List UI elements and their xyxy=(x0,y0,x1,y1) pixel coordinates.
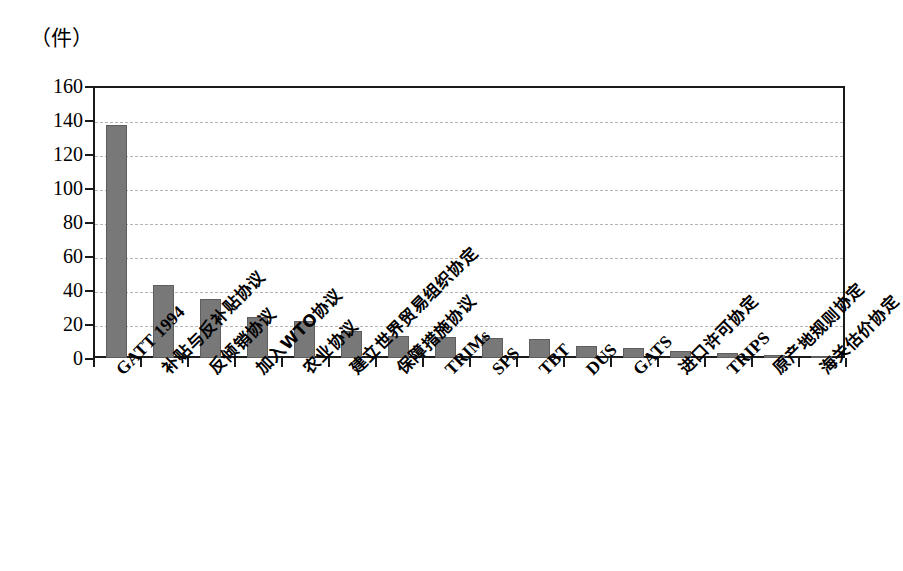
y-tick-mark xyxy=(85,188,93,190)
y-tick-label: 120 xyxy=(53,144,83,164)
y-axis-tick-labels: 160140120100806040200 xyxy=(27,86,83,358)
y-tick-mark xyxy=(85,154,93,156)
y-tick-label: 140 xyxy=(53,110,83,130)
y-tick-mark xyxy=(85,290,93,292)
bar xyxy=(106,125,128,358)
y-tick-label: 40 xyxy=(63,280,83,300)
y-tick-label: 60 xyxy=(63,246,83,266)
y-tick-mark xyxy=(85,86,93,88)
x-axis-category-labels: GATT 1994补贴与反补贴协议反倾销协议加入WTO协议农业协议建立世界贸易组… xyxy=(93,366,845,566)
y-tick-label: 80 xyxy=(63,212,83,232)
y-tick-label: 100 xyxy=(53,178,83,198)
y-tick-mark xyxy=(85,358,93,360)
y-tick-mark xyxy=(85,256,93,258)
y-tick-label: 20 xyxy=(63,314,83,334)
y-axis-unit-label: （件） xyxy=(30,28,93,49)
y-tick-mark xyxy=(85,120,93,122)
y-tick-label: 0 xyxy=(73,348,83,368)
y-tick-mark xyxy=(85,222,93,224)
y-tick-mark xyxy=(85,324,93,326)
y-tick-label: 160 xyxy=(53,76,83,96)
